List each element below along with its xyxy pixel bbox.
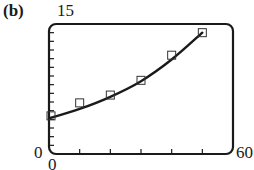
fitted-curve (49, 33, 202, 119)
data-point-marker (76, 99, 84, 107)
data-points (47, 29, 206, 120)
plot-area (0, 0, 254, 170)
viewing-window-frame (49, 24, 233, 154)
